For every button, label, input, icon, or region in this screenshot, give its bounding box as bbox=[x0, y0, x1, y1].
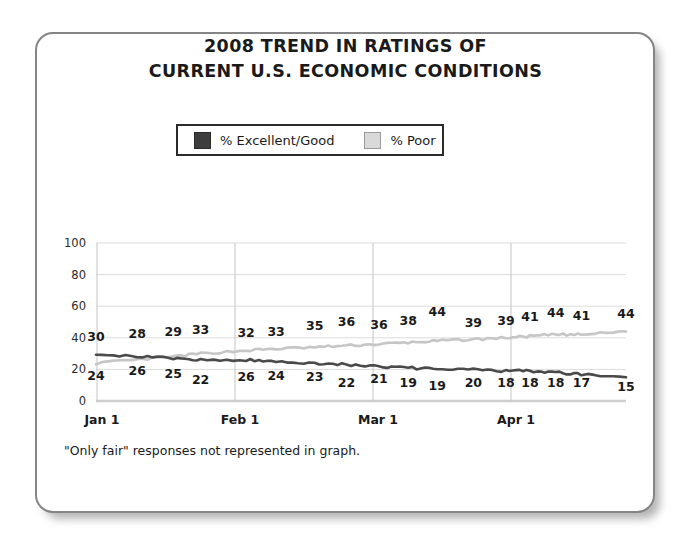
legend-label-poor: % Poor bbox=[390, 133, 435, 148]
legend-item-excellent-good: % Excellent/Good bbox=[194, 132, 334, 149]
legend-swatch-icon-poor bbox=[364, 132, 381, 149]
page-title: 2008 TREND IN RATINGS OF CURRENT U.S. EC… bbox=[0, 34, 691, 84]
chart-legend: % Excellent/Good % Poor bbox=[176, 124, 444, 156]
legend-item-poor: % Poor bbox=[364, 132, 435, 149]
title-line-2: CURRENT U.S. ECONOMIC CONDITIONS bbox=[0, 59, 691, 84]
chart-footnote: "Only fair" responses not represented in… bbox=[64, 443, 360, 458]
title-line-1: 2008 TREND IN RATINGS OF bbox=[0, 34, 691, 59]
legend-label-excellent-good: % Excellent/Good bbox=[220, 133, 334, 148]
legend-swatch-icon-excellent-good bbox=[194, 132, 211, 149]
chart-card bbox=[35, 32, 655, 513]
